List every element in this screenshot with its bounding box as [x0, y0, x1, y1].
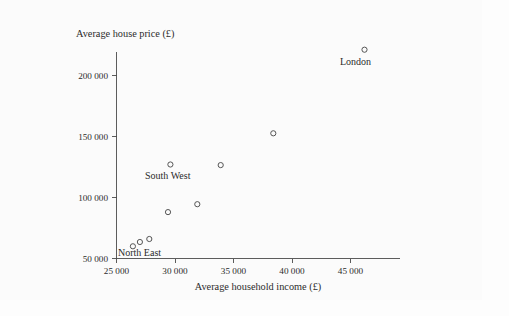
- x-tick-label-40000: 40 000: [279, 266, 305, 276]
- y-tick-label-100000: 100 000: [78, 193, 108, 203]
- data-point: [271, 131, 276, 136]
- data-point-london: [362, 47, 367, 52]
- scatter-chart-figure: 200 000 150 000 100 000 50 000 25 000 30…: [0, 0, 509, 316]
- annotation-south-west: South West: [145, 170, 191, 181]
- plot-canvas: 200 000 150 000 100 000 50 000 25 000 30…: [0, 0, 509, 316]
- x-tick-label-25000: 25 000: [104, 266, 130, 276]
- x-tick-label-45000: 45 000: [338, 266, 364, 276]
- data-points-group: [130, 47, 367, 249]
- y-tick-label-150000: 150 000: [78, 132, 108, 142]
- data-point: [165, 210, 170, 215]
- y-tick-label-200000: 200 000: [78, 71, 108, 81]
- screenshot-root: 200 000 150 000 100 000 50 000 25 000 30…: [0, 0, 509, 316]
- y-axis-title: Average house price (£): [76, 28, 174, 40]
- y-tick-label-50000: 50 000: [83, 254, 109, 264]
- data-point: [137, 239, 142, 244]
- annotation-north-east: North East: [118, 247, 161, 258]
- data-point: [147, 236, 152, 241]
- data-point: [218, 163, 223, 168]
- data-point: [195, 202, 200, 207]
- x-tick-label-30000: 30 000: [162, 266, 188, 276]
- annotation-london: London: [340, 56, 371, 67]
- data-point-south-west: [168, 162, 173, 167]
- x-tick-label-35000: 35 000: [221, 266, 247, 276]
- x-axis-title: Average household income (£): [195, 281, 321, 293]
